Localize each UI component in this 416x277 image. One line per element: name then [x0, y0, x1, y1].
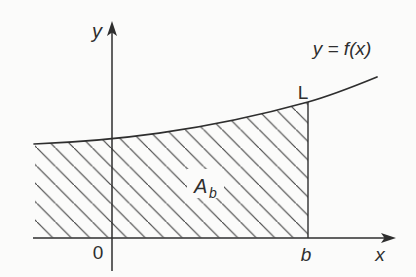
- curve-label: y = f(x): [311, 38, 372, 59]
- area-label-subscript: b: [209, 185, 217, 201]
- figure-canvas: y y = f(x) L Ab 0 b x: [0, 0, 416, 277]
- origin-label: 0: [93, 242, 104, 263]
- figure-area-under-curve: y y = f(x) L Ab 0 b x: [0, 0, 416, 277]
- shaded-area-region: [35, 102, 308, 238]
- b-tick-label: b: [301, 244, 312, 265]
- y-axis-label: y: [90, 20, 103, 42]
- x-axis-label: x: [374, 244, 386, 265]
- point-L-label: L: [298, 82, 309, 103]
- area-label-base: A: [193, 175, 207, 197]
